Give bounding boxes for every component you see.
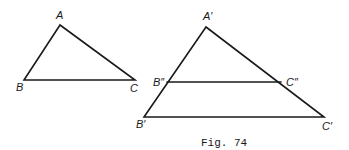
triangle-a1b1c1-outline: [144, 27, 324, 117]
triangle-a1b1c1: A′ B″ C″ B′ C′: [136, 10, 333, 132]
label-a-prime: A′: [202, 10, 213, 22]
label-b-prime: B′: [136, 118, 146, 130]
triangle-abc: A B C: [16, 9, 138, 94]
figure-caption: Fig. 74: [201, 137, 248, 149]
label-c: C: [130, 82, 138, 94]
label-a: A: [55, 9, 63, 21]
label-c-double-prime: C″: [286, 76, 299, 88]
figure-74-diagram: A B C A′ B″ C″ B′ C′ Fig. 74: [0, 0, 349, 150]
triangle-abc-outline: [24, 25, 135, 80]
label-c-prime: C′: [322, 120, 333, 132]
label-b: B: [16, 81, 23, 93]
label-b-double-prime: B″: [153, 76, 165, 88]
